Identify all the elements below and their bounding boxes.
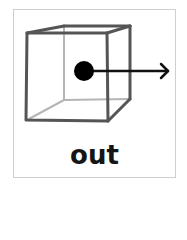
arrow-right-icon	[84, 64, 168, 78]
card-label: out	[13, 140, 176, 170]
point-dot	[74, 61, 94, 81]
